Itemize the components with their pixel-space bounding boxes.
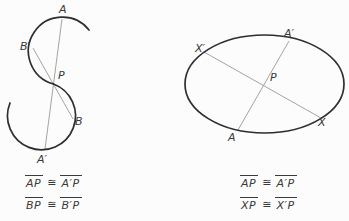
congruent-symbol: ≅ — [47, 197, 56, 211]
congruence-statement: AP ≅ A′P — [25, 175, 82, 190]
point-label-p: P — [58, 69, 65, 82]
congruence-statement: XP ≅ X′P — [240, 197, 297, 212]
point-label-a-prime: A′ — [283, 27, 295, 40]
congruence-statements-left: AP ≅ A′P BP ≅ B′P — [25, 175, 82, 212]
point-label-b: B — [75, 115, 83, 128]
congruence-statements-right: AP ≅ A′P XP ≅ X′P — [240, 175, 297, 212]
segment-name: A′P — [60, 175, 81, 190]
congruent-symbol: ≅ — [262, 175, 271, 189]
segment-name: X′P — [275, 197, 296, 212]
segment-name: AP — [240, 175, 258, 190]
point-label-a: A — [58, 3, 67, 16]
congruence-statement: AP ≅ A′P — [240, 175, 297, 190]
chord-xprime-x — [204, 52, 321, 118]
congruent-symbol: ≅ — [262, 197, 271, 211]
point-label-a-prime: A′ — [36, 153, 48, 166]
point-label-x: X — [317, 116, 326, 129]
s-curve-figure: A B′ P B A′ — [0, 0, 120, 170]
segment-name: A′P — [275, 175, 296, 190]
segment-name: B′P — [60, 197, 81, 212]
point-label-a: A — [227, 131, 236, 144]
segment-name: AP — [25, 175, 43, 190]
segment-name: BP — [25, 197, 43, 212]
congruent-symbol: ≅ — [47, 175, 56, 189]
ellipse-figure: X′ A′ P A X — [172, 14, 349, 164]
diagram-canvas: A B′ P B A′ X′ A′ P A X AP ≅ A′P BP ≅ B′… — [0, 0, 349, 221]
segment-name: XP — [240, 197, 258, 212]
point-label-b-prime: B′ — [20, 40, 31, 53]
point-label-x-prime: X′ — [194, 42, 206, 55]
congruence-statement: BP ≅ B′P — [25, 197, 82, 212]
s-curve-lower-arc — [7, 84, 75, 150]
point-label-p: P — [270, 71, 277, 84]
